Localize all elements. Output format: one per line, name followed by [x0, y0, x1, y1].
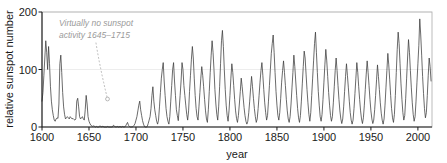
- x-tick-label-1700: 1700: [124, 131, 148, 143]
- y-axis-tick-labels: 0100200: [19, 6, 37, 133]
- y-tick-label-100: 100: [19, 64, 37, 76]
- annotation-line-1: Virtually no sunspot: [59, 18, 134, 28]
- x-tick-label-1800: 1800: [218, 131, 242, 143]
- y-tick-label-200: 200: [19, 6, 37, 18]
- x-tick-label-1750: 1750: [171, 131, 195, 143]
- x-tick-label-1950: 1950: [359, 131, 383, 143]
- y-tick-label-0: 0: [31, 121, 37, 133]
- chart-canvas: 160016501700175018001850190019502000 010…: [0, 0, 447, 163]
- x-tick-label-1900: 1900: [312, 131, 336, 143]
- sunspot-number-chart-figure: 160016501700175018001850190019502000 010…: [0, 0, 447, 163]
- y-axis-title: relative sunspot number: [3, 10, 15, 128]
- x-tick-label-2000: 2000: [406, 131, 430, 143]
- x-axis-tick-labels: 160016501700175018001850190019502000: [30, 131, 430, 143]
- annotation-line-2: activity 1645–1715: [59, 30, 130, 40]
- x-tick-label-1850: 1850: [265, 131, 289, 143]
- x-axis-title: year: [226, 148, 248, 160]
- x-tick-label-1650: 1650: [77, 131, 101, 143]
